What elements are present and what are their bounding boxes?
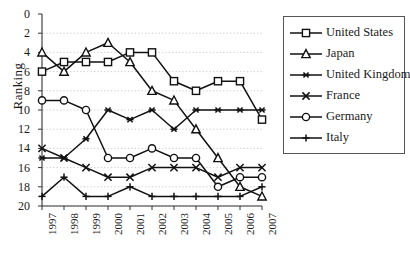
x-tick-label: 2005 — [222, 213, 234, 235]
legend-item[interactable]: Japan — [289, 43, 398, 64]
circle-marker-icon — [289, 110, 323, 124]
x-tick-label: 1997 — [46, 213, 58, 235]
legend-item[interactable]: France — [289, 85, 398, 106]
legend-item-label: Germany — [323, 110, 373, 123]
legend-item[interactable]: Italy — [289, 127, 398, 148]
x-tick-label: 2007 — [266, 213, 278, 235]
cross-marker-icon — [289, 89, 323, 103]
x-tick-label: 2000 — [112, 213, 124, 235]
legend-item[interactable]: United Kingdom — [289, 64, 398, 85]
legend-item-label: United Kingdom — [323, 68, 410, 81]
square-marker-icon — [289, 26, 323, 40]
x-tick-label: 1999 — [90, 213, 102, 235]
x-tick-label: 2001 — [134, 213, 146, 235]
triangle-marker-icon — [289, 47, 323, 61]
asterisk-marker-icon — [289, 68, 323, 82]
ranking-line-chart: Ranking 02468101214161820 19971998199920… — [0, 0, 410, 256]
legend-item-label: Japan — [323, 47, 354, 60]
x-tick-label: 2006 — [244, 213, 256, 235]
x-tick-label: 2004 — [200, 213, 212, 235]
x-tick-label: 2003 — [178, 213, 190, 235]
x-tick-label: 2002 — [156, 213, 168, 235]
x-tick-label: 1998 — [68, 213, 80, 235]
legend-item-label: United States — [323, 26, 393, 39]
legend-item[interactable]: United States — [289, 22, 398, 43]
chart-legend: United StatesJapanUnited KingdomFranceGe… — [283, 16, 405, 154]
legend-item-label: France — [323, 89, 360, 102]
legend-item[interactable]: Germany — [289, 106, 398, 127]
legend-item-label: Italy — [323, 131, 349, 144]
plus-marker-icon — [289, 131, 323, 145]
